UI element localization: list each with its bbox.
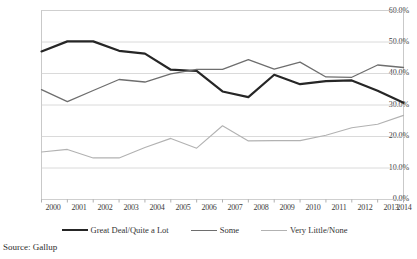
- legend-label: Great Deal/Quite a Lot: [91, 226, 169, 235]
- legend-item-very-little-none[interactable]: Very Little/None: [261, 226, 347, 235]
- series-lines: [42, 41, 404, 158]
- gridlines: [42, 11, 404, 200]
- series-line: [42, 41, 404, 102]
- legend-item-great-deal-quite-a-lot[interactable]: Great Deal/Quite a Lot: [62, 226, 169, 235]
- legend-item-some[interactable]: Some: [191, 226, 239, 235]
- legend-label: Some: [220, 226, 239, 235]
- x-axis-ticks: [42, 200, 404, 203]
- legend: Great Deal/Quite a Lot Some Very Little/…: [0, 222, 409, 238]
- legend-swatch-icon: [261, 230, 287, 231]
- source-note: Source: Gallup: [3, 242, 57, 253]
- legend-swatch-icon: [62, 229, 88, 231]
- legend-label: Very Little/None: [290, 226, 347, 235]
- legend-swatch-icon: [191, 230, 217, 231]
